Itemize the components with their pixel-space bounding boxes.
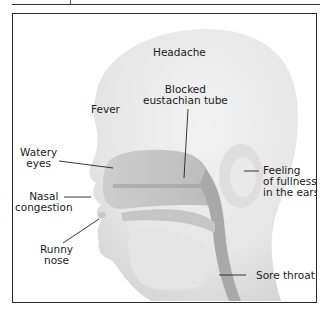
label-nasal-congestion: Nasal congestion bbox=[15, 191, 73, 213]
label-sore-throat: Sore throat bbox=[256, 270, 315, 281]
label-fever: Fever bbox=[91, 104, 120, 115]
diagram-frame: Headache Blocked eustachian tube Fever W… bbox=[12, 13, 317, 303]
label-headache: Headache bbox=[153, 47, 206, 58]
label-runny-nose: Runny nose bbox=[40, 244, 73, 266]
label-watery-eyes: Watery eyes bbox=[20, 147, 57, 169]
caption-rule bbox=[12, 4, 320, 5]
label-eustachian-tube: Blocked eustachian tube bbox=[143, 84, 228, 106]
caption-tick bbox=[70, 0, 71, 4]
nasal-cavity bbox=[103, 150, 211, 209]
label-ear-fullness: Feeling of fullness in the ears bbox=[263, 165, 317, 198]
